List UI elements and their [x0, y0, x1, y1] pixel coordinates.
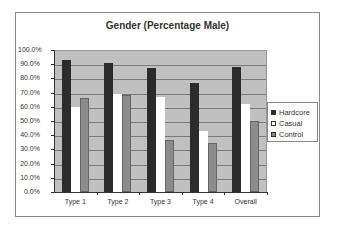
- x-tick-mark: [267, 192, 268, 195]
- x-tick-label: Type 1: [54, 198, 97, 205]
- y-tick-mark: [51, 164, 54, 165]
- y-tick-mark: [51, 50, 54, 51]
- chart-title: Gender (Percentage Male): [15, 20, 320, 31]
- x-tick-label: Type 3: [139, 198, 182, 205]
- x-tick-label: Type 2: [97, 198, 140, 205]
- bar-casual: [71, 107, 80, 192]
- plot-area: [54, 50, 267, 192]
- y-tick-label: 50.0%: [18, 117, 40, 124]
- y-tick-mark: [51, 178, 54, 179]
- control-swatch-icon: [271, 132, 276, 137]
- x-tick-label: Type 4: [182, 198, 225, 205]
- x-tick-mark: [97, 192, 98, 195]
- legend-label: Hardcore: [279, 108, 310, 117]
- bar-hardcore: [62, 60, 71, 192]
- bar-control: [165, 140, 174, 192]
- bar-control: [80, 98, 89, 192]
- y-tick-label: 20.0%: [18, 160, 40, 167]
- bar-casual: [156, 97, 165, 192]
- y-tick-mark: [51, 64, 54, 65]
- y-tick-label: 0.0%: [18, 188, 40, 195]
- y-tick-mark: [51, 135, 54, 136]
- y-tick-mark: [51, 149, 54, 150]
- y-tick-label: 30.0%: [18, 145, 40, 152]
- y-tick-mark: [51, 107, 54, 108]
- bar-casual: [199, 131, 208, 192]
- hardcore-swatch-icon: [271, 110, 276, 115]
- bar-control: [250, 121, 259, 192]
- legend-item-hardcore: Hardcore: [271, 108, 310, 117]
- y-tick-label: 10.0%: [18, 174, 40, 181]
- y-tick-label: 40.0%: [18, 131, 40, 138]
- bar-control: [122, 95, 131, 192]
- legend-item-control: Control: [271, 130, 303, 139]
- legend-item-casual: Casual: [271, 119, 302, 128]
- bar-casual: [113, 94, 122, 192]
- x-tick-mark: [224, 192, 225, 195]
- legend-label: Casual: [279, 119, 302, 128]
- x-tick-mark: [139, 192, 140, 195]
- bar-hardcore: [190, 83, 199, 192]
- bar-hardcore: [104, 63, 113, 192]
- y-tick-label: 100.0%: [18, 46, 40, 53]
- bar-hardcore: [232, 67, 241, 192]
- x-tick-label: Overall: [224, 198, 267, 205]
- y-tick-mark: [51, 192, 54, 193]
- bar-casual: [241, 104, 250, 192]
- x-axis: [54, 192, 267, 193]
- y-tick-mark: [51, 93, 54, 94]
- y-tick-mark: [51, 121, 54, 122]
- bar-control: [208, 143, 217, 192]
- casual-swatch-icon: [271, 121, 276, 126]
- bar-hardcore: [147, 68, 156, 192]
- y-tick-label: 80.0%: [18, 74, 40, 81]
- x-tick-mark: [182, 192, 183, 195]
- legend: Hardcore Casual Control: [267, 102, 318, 142]
- y-tick-label: 60.0%: [18, 103, 40, 110]
- y-axis: [54, 50, 55, 193]
- y-tick-label: 70.0%: [18, 89, 40, 96]
- gridline: [54, 65, 266, 66]
- y-tick-mark: [51, 78, 54, 79]
- legend-label: Control: [279, 130, 303, 139]
- y-tick-label: 90.0%: [18, 60, 40, 67]
